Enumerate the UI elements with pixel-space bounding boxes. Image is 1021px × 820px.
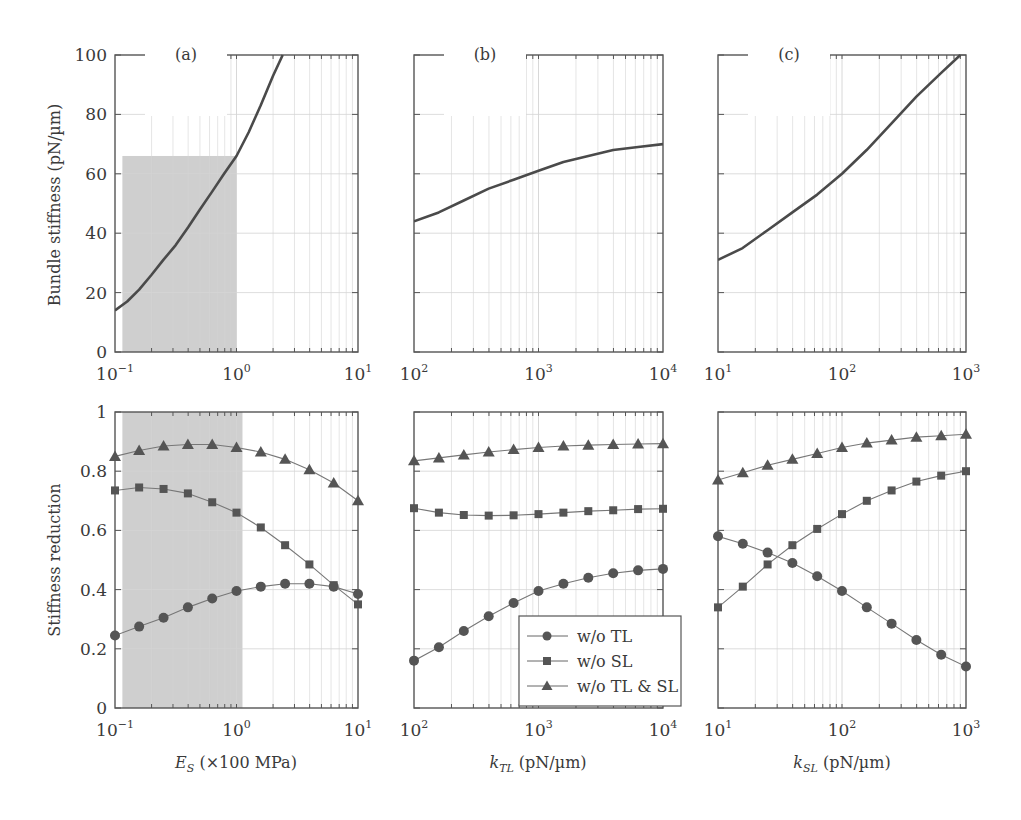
- x-tick-label: 101: [704, 362, 733, 384]
- square-marker-icon: [460, 511, 468, 519]
- x-tick-label: 10−1: [96, 362, 134, 384]
- circle-marker-icon: [256, 582, 266, 592]
- circle-marker-icon: [787, 558, 797, 568]
- panel-label: (a): [175, 45, 197, 64]
- x-tick-label: 103: [952, 718, 981, 740]
- figure: 020406080100(a)10−1100101(b)102103104(c)…: [0, 0, 1021, 820]
- legend: w/o TL w/o SL w/o TL & SL: [519, 616, 681, 706]
- x-tick-label: 103: [524, 362, 553, 384]
- x-tick-label: 100: [222, 718, 251, 740]
- square-marker-icon: [584, 507, 592, 515]
- circle-marker-icon: [509, 598, 519, 608]
- square-marker-icon: [559, 509, 567, 517]
- circle-marker-icon: [558, 579, 568, 589]
- square-marker-icon: [111, 486, 119, 494]
- svg-text:w/o TL: w/o TL: [577, 627, 632, 646]
- circle-marker-icon: [658, 564, 668, 574]
- circle-marker-icon: [207, 593, 217, 603]
- chart-panel-c-bottom: 101102103: [704, 412, 981, 740]
- panel-label: (c): [778, 45, 799, 64]
- x-axis-label-a: ES (×100 MPa): [174, 753, 297, 775]
- triangle-marker-icon: [328, 477, 340, 488]
- square-marker-icon: [233, 509, 241, 517]
- square-marker-icon: [281, 541, 289, 549]
- square-marker-icon: [634, 505, 642, 513]
- square-marker-icon: [485, 512, 493, 520]
- y-axis-label-bottom: Stiffness reduction: [45, 483, 64, 636]
- circle-marker-icon: [304, 579, 314, 589]
- x-tick-label: 102: [828, 362, 857, 384]
- circle-marker-icon: [232, 586, 242, 596]
- square-marker-icon: [543, 657, 551, 665]
- circle-marker-icon: [459, 626, 469, 636]
- x-tick-label: 100: [222, 362, 251, 384]
- circle-marker-icon: [887, 619, 897, 629]
- triangle-marker-icon: [582, 439, 594, 450]
- x-tick-label: 101: [704, 718, 733, 740]
- square-marker-icon: [208, 498, 216, 506]
- x-tick-label: 102: [400, 718, 429, 740]
- x-axis-label-c: kSL (pN/µm): [793, 753, 890, 775]
- circle-marker-icon: [183, 602, 193, 612]
- circle-marker-icon: [936, 650, 946, 660]
- square-marker-icon: [354, 600, 362, 608]
- y-tick-label: 0.6: [80, 520, 107, 540]
- x-tick-label: 101: [344, 718, 373, 740]
- panel-label-gap: [145, 56, 227, 116]
- circle-marker-icon: [159, 613, 169, 623]
- x-axis-label-b: kTL (pN/µm): [489, 753, 586, 775]
- square-marker-icon: [764, 560, 772, 568]
- y-tick-label: 0: [96, 342, 107, 362]
- circle-marker-icon: [543, 632, 552, 641]
- circle-marker-icon: [434, 642, 444, 652]
- x-tick-label: 102: [828, 718, 857, 740]
- square-marker-icon: [305, 560, 313, 568]
- panel-label-gap: [748, 56, 830, 116]
- triangle-marker-icon: [352, 495, 364, 506]
- svg-text:w/o TL & SL: w/o TL & SL: [577, 677, 678, 696]
- circle-marker-icon: [134, 622, 144, 632]
- shaded-region: [122, 156, 236, 352]
- y-tick-label: 40: [85, 223, 107, 243]
- y-tick-label: 0.8: [80, 461, 107, 481]
- circle-marker-icon: [763, 548, 773, 558]
- triangle-marker-icon: [557, 440, 569, 451]
- square-marker-icon: [912, 478, 920, 486]
- circle-marker-icon: [911, 635, 921, 645]
- x-tick-label: 103: [952, 362, 981, 384]
- y-tick-label: 80: [85, 104, 107, 124]
- chart-panel-a-bottom: 00.20.40.60.8110−1100101: [80, 402, 372, 740]
- square-marker-icon: [788, 541, 796, 549]
- x-tick-label: 102: [400, 362, 429, 384]
- panel-label: (b): [474, 45, 497, 64]
- square-marker-icon: [609, 506, 617, 514]
- circle-marker-icon: [110, 630, 120, 640]
- panel-label-gap: [444, 56, 526, 116]
- square-marker-icon: [863, 497, 871, 505]
- circle-marker-icon: [280, 579, 290, 589]
- circle-marker-icon: [837, 586, 847, 596]
- y-tick-label: 60: [85, 164, 107, 184]
- square-marker-icon: [510, 511, 518, 519]
- x-tick-label: 101: [344, 362, 373, 384]
- circle-marker-icon: [633, 565, 643, 575]
- square-marker-icon: [714, 603, 722, 611]
- x-tick-label: 10−1: [96, 718, 134, 740]
- square-marker-icon: [410, 504, 418, 512]
- x-tick-label: 104: [649, 362, 678, 384]
- triangle-marker-icon: [632, 438, 644, 449]
- triangle-marker-icon: [303, 464, 315, 475]
- svg-text:w/o SL: w/o SL: [577, 652, 633, 671]
- square-marker-icon: [659, 505, 667, 513]
- square-marker-icon: [257, 523, 265, 531]
- square-marker-icon: [739, 583, 747, 591]
- triangle-marker-icon: [960, 428, 972, 439]
- square-marker-icon: [135, 483, 143, 491]
- y-axis-label-top: Bundle stiffness (pN/µm): [45, 104, 64, 306]
- square-marker-icon: [838, 510, 846, 518]
- square-marker-icon: [435, 509, 443, 517]
- chart-panel-b-top: (b)102103104: [400, 45, 678, 384]
- circle-marker-icon: [812, 571, 822, 581]
- circle-marker-icon: [353, 589, 363, 599]
- triangle-marker-icon: [657, 438, 669, 449]
